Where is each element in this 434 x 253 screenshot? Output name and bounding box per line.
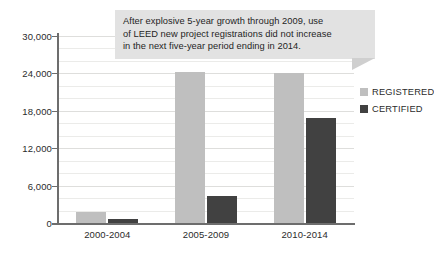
y-axis-tick-mark <box>52 111 57 112</box>
callout-tail-icon <box>352 58 375 70</box>
y-axis-tick-label: 24,000 <box>4 68 52 79</box>
y-axis-tick-mark <box>52 148 57 149</box>
bar-certified-2010-2014 <box>306 118 336 223</box>
callout-line-3: in the next five-year period ending in 2… <box>123 40 368 53</box>
y-axis-tick-label: 0 <box>4 218 52 229</box>
legend-item-registered: REGISTERED <box>360 84 434 99</box>
y-axis-tick-label: 6,000 <box>4 180 52 191</box>
legend-swatch-certified <box>360 105 368 113</box>
bar-certified-2000-2004 <box>108 219 138 223</box>
chart-legend: REGISTERED CERTIFIED <box>360 84 434 118</box>
callout-annotation: After explosive 5-year growth through 20… <box>115 10 375 59</box>
x-axis-tick-label: 2005-2009 <box>166 229 246 240</box>
y-axis-tick-label: 12,000 <box>4 143 52 154</box>
callout-line-2: of LEED new project registrations did no… <box>123 28 368 41</box>
bar-registered-2000-2004 <box>76 212 106 223</box>
callout-line-1: After explosive 5-year growth through 20… <box>123 15 368 28</box>
x-axis-line <box>52 223 355 225</box>
y-axis-tick-label: 30,000 <box>4 31 52 42</box>
y-axis-tick-mark <box>52 186 57 187</box>
y-axis-tick-mark <box>52 73 57 74</box>
y-axis-tick-mark <box>52 223 57 224</box>
bar-registered-2010-2014 <box>274 73 304 223</box>
x-axis-tick-label: 2000-2004 <box>67 229 147 240</box>
y-axis-labels: 06,00012,00018,00024,00030,000 <box>0 0 52 253</box>
bar-registered-2005-2009 <box>175 72 205 223</box>
bar-certified-2005-2009 <box>207 196 237 223</box>
bars-layer <box>58 36 354 223</box>
y-axis-tick-mark <box>52 36 57 37</box>
x-axis-tick-label: 2010-2014 <box>265 229 345 240</box>
legend-item-certified: CERTIFIED <box>360 101 434 116</box>
legend-label-registered: REGISTERED <box>372 87 434 97</box>
y-axis-tick-label: 18,000 <box>4 105 52 116</box>
legend-label-certified: CERTIFIED <box>372 104 423 114</box>
legend-swatch-registered <box>360 88 368 96</box>
